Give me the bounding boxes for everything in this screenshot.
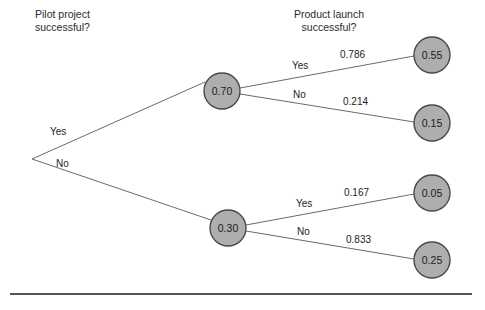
node-label-leaf-d: 0.25 — [422, 254, 443, 266]
edge-probability-upper-yes: 0.786 — [340, 49, 365, 60]
node-leaf-a: 0.55 — [414, 37, 450, 73]
node-label-leaf-c: 0.05 — [422, 187, 443, 199]
edge-root-to-pilot-yes — [32, 82, 205, 159]
edge-label-lower-no: No — [297, 226, 310, 237]
tree-graphics: 0.70 0.30 0.55 0.15 0.05 0.25 — [0, 0, 485, 310]
edge-pilot-no-to-leaf-d — [246, 231, 414, 259]
edge-label-upper-yes: Yes — [292, 60, 308, 71]
node-leaf-b: 0.15 — [414, 105, 450, 141]
node-pilot-no: 0.30 — [210, 210, 246, 246]
node-pilot-yes: 0.70 — [204, 73, 240, 109]
edge-probability-upper-no: 0.214 — [343, 96, 368, 107]
edge-label-lower-yes: Yes — [296, 198, 312, 209]
edge-pilot-yes-to-leaf-b — [240, 94, 414, 122]
decision-tree-figure: Pilot project successful? Product launch… — [0, 0, 485, 310]
node-leaf-c: 0.05 — [414, 175, 450, 211]
node-label-pilot-yes: 0.70 — [212, 85, 233, 97]
edge-probability-lower-yes: 0.167 — [344, 187, 369, 198]
node-leaf-d: 0.25 — [414, 242, 450, 278]
node-label-pilot-no: 0.30 — [218, 222, 239, 234]
edge-pilot-yes-to-leaf-a — [240, 56, 414, 88]
node-label-leaf-b: 0.15 — [422, 117, 443, 129]
edge-label-root-no: No — [56, 158, 69, 169]
node-label-leaf-a: 0.55 — [422, 49, 443, 61]
edge-label-upper-no: No — [293, 89, 306, 100]
edge-pilot-no-to-leaf-c — [246, 194, 414, 225]
bottom-divider-rule — [10, 293, 472, 295]
edge-probability-lower-no: 0.833 — [346, 234, 371, 245]
edge-label-root-yes: Yes — [50, 126, 66, 137]
